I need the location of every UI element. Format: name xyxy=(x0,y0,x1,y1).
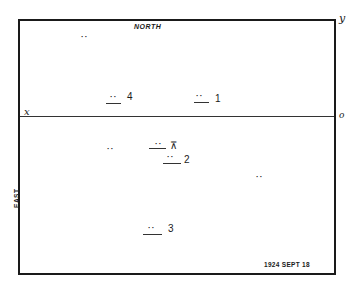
y-axis-label: y xyxy=(339,13,345,24)
star-label: 3 xyxy=(168,224,174,234)
star-dots: ·· xyxy=(196,92,203,100)
x-axis-label: x xyxy=(24,107,30,117)
plate-frame xyxy=(18,19,336,275)
star-dots: ·· xyxy=(167,153,174,161)
star-underline xyxy=(194,102,209,103)
star-dots: ·· xyxy=(107,145,114,153)
star-dots: ·· xyxy=(155,140,162,148)
date-label: 1924 SEPT 18 xyxy=(264,262,310,269)
origin-label: o xyxy=(339,111,344,120)
star-dots: ·· xyxy=(81,33,88,41)
x-axis-line xyxy=(20,116,334,117)
star-plate: NORTH EAST 1924 SEPT 18 x y o ·· 1 ·· 2 … xyxy=(0,0,361,293)
star-underline xyxy=(163,163,181,164)
star-underline xyxy=(149,148,166,149)
star-label: 4 xyxy=(127,92,133,102)
star-dots: ·· xyxy=(148,224,155,232)
star-dots: ·· xyxy=(110,93,117,101)
star-label: 2 xyxy=(184,155,190,165)
star-underline xyxy=(143,234,162,235)
star-dots: ·· xyxy=(256,173,263,181)
east-label: EAST xyxy=(14,189,21,208)
star-label: 1 xyxy=(215,94,221,104)
north-label: NORTH xyxy=(134,23,161,30)
target-symbol: ⊼ xyxy=(170,141,177,151)
star-underline xyxy=(106,103,121,104)
